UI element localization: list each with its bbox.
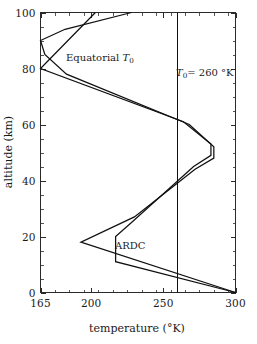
x-tick-label: 300 bbox=[225, 298, 245, 309]
temperature-altitude-figure: 165200250300 020406080100 temperature (°… bbox=[0, 0, 257, 344]
y-tick-label: 40 bbox=[22, 175, 36, 186]
annotation-equatorial-base: Equatorial bbox=[66, 52, 122, 63]
annotation-equatorial-label: Equatorial T0 bbox=[66, 52, 134, 65]
x-tick-label: 200 bbox=[81, 298, 101, 309]
y-tick-label: 80 bbox=[22, 63, 36, 74]
y-tick-label: 0 bbox=[29, 287, 36, 298]
x-tick-label: 165 bbox=[30, 298, 50, 309]
y-tick-label: 60 bbox=[22, 119, 36, 130]
annotation-reference-rest: = 260 °K bbox=[187, 67, 233, 78]
y-tick-label: 100 bbox=[15, 7, 35, 18]
annotation-reference-temperature-label: T0= 260 °K bbox=[176, 67, 234, 80]
y-tick-label: 20 bbox=[22, 231, 36, 242]
annotation-equatorial-subscript: 0 bbox=[129, 56, 134, 65]
x-tick-label: 250 bbox=[153, 298, 173, 309]
annotation-reference-symbol: T bbox=[176, 67, 183, 78]
x-axis-title: temperature (°K) bbox=[89, 322, 185, 335]
annotation-ardc-label: ARDC bbox=[115, 240, 145, 251]
y-axis-title: altitude (km) bbox=[2, 116, 15, 188]
